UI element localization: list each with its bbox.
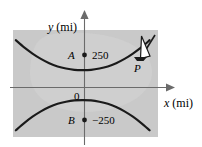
x-axis-label: x(mi) [164,97,193,109]
point-label-a: A [68,50,75,61]
point-label-p: P [134,63,141,74]
x-axis-label-unit: (mi) [172,96,193,110]
y-axis-label: y(mi) [48,21,77,33]
origin-label: 0 [74,91,80,102]
y-axis-label-unit: (mi) [56,20,77,34]
y-axis-label-symbol: y [48,20,53,34]
point-value-a: 250 [92,50,109,61]
arrow-up-icon [80,10,88,19]
point-label-b: B [68,115,75,126]
arrow-right-icon [166,83,175,91]
point-marker-icon-a [82,53,87,58]
point-marker-icon-b [82,118,87,123]
point-value-b: −250 [92,115,115,126]
hyperbola-figure: y(mi) x(mi) 0 A 250 B −250 P [0,0,202,147]
x-axis-label-symbol: x [164,96,169,110]
